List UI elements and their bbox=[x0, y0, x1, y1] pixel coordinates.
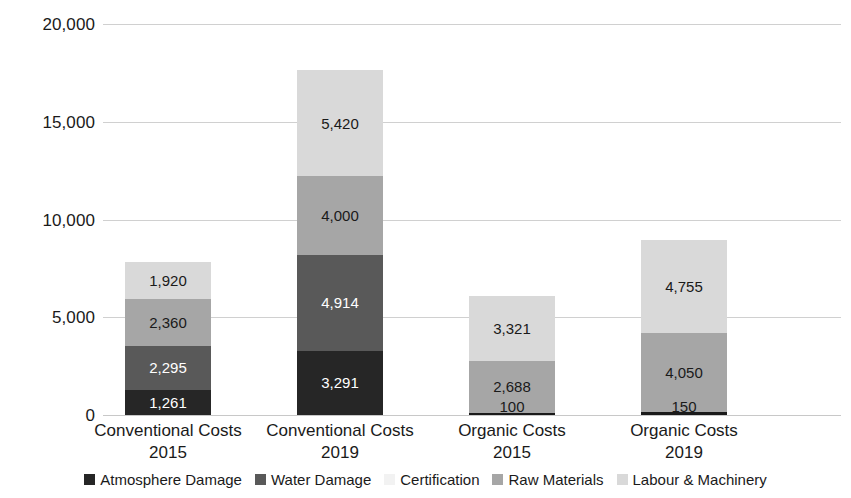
legend-label: Water Damage bbox=[271, 472, 371, 487]
bar-segment-value-label: 100 bbox=[469, 399, 555, 414]
bar-segment[interactable]: 4,914 bbox=[297, 255, 383, 351]
bar-segment[interactable]: 4,000 bbox=[297, 176, 383, 254]
legend-label: Labour & Machinery bbox=[633, 472, 767, 487]
bar-segment[interactable]: 150 bbox=[641, 412, 727, 415]
legend-swatch-icon bbox=[492, 474, 503, 485]
x-axis-category-label: Conventional Costs2019 bbox=[245, 420, 435, 464]
legend-item[interactable]: Raw Materials bbox=[492, 472, 603, 487]
x-axis-category-label: Organic Costs2019 bbox=[589, 420, 779, 464]
x-axis-category-line2: 2019 bbox=[245, 442, 435, 464]
bar-4[interactable]: 1504,0504,755 bbox=[641, 240, 727, 415]
bar-segment-value-label: 150 bbox=[641, 399, 727, 414]
bar-segment-value-label: 2,360 bbox=[149, 315, 187, 330]
x-axis-category-line2: 2015 bbox=[417, 442, 607, 464]
x-axis-category-label: Conventional Costs2015 bbox=[73, 420, 263, 464]
bar-3[interactable]: 1002,6883,321 bbox=[469, 296, 555, 415]
bar-segment[interactable]: 100 bbox=[469, 413, 555, 415]
bar-segment[interactable]: 4,755 bbox=[641, 240, 727, 333]
x-axis-category-line1: Conventional Costs bbox=[94, 421, 241, 440]
x-axis-category-label: Organic Costs2015 bbox=[417, 420, 607, 464]
x-axis-category-line2: 2015 bbox=[73, 442, 263, 464]
legend-label: Raw Materials bbox=[508, 472, 603, 487]
y-axis-tick-label: 20,000 bbox=[3, 16, 95, 33]
bar-segment-value-label: 3,291 bbox=[321, 375, 359, 390]
chart-legend: Atmosphere DamageWater DamageCertificati… bbox=[0, 472, 851, 487]
legend-item[interactable]: Certification bbox=[384, 472, 479, 487]
x-axis-category-line1: Organic Costs bbox=[630, 421, 738, 440]
bar-segment-value-label: 4,050 bbox=[665, 365, 703, 380]
legend-swatch-icon bbox=[255, 474, 266, 485]
bar-segment[interactable]: 3,321 bbox=[469, 296, 555, 361]
bar-segment[interactable]: 1,261 bbox=[125, 390, 211, 415]
y-axis-tick-label: 10,000 bbox=[3, 212, 95, 229]
gridline-20000 bbox=[103, 24, 841, 25]
bar-segment-value-label: 4,914 bbox=[321, 295, 359, 310]
bar-segment[interactable]: 1,920 bbox=[125, 262, 211, 300]
gridline-0 bbox=[103, 415, 841, 416]
bar-2[interactable]: 3,2914,9144,0005,420 bbox=[297, 70, 383, 415]
gridline-15000 bbox=[103, 122, 841, 123]
stacked-bar-chart: 05,00010,00015,00020,000 1,2612,2952,360… bbox=[0, 0, 851, 498]
bar-segment-value-label: 5,420 bbox=[321, 116, 359, 131]
y-axis-tick-label: 5,000 bbox=[3, 309, 95, 326]
legend-label: Atmosphere Damage bbox=[100, 472, 242, 487]
bar-segment-value-label: 2,688 bbox=[493, 379, 531, 394]
x-axis-category-line2: 2019 bbox=[589, 442, 779, 464]
legend-swatch-icon bbox=[384, 474, 395, 485]
y-axis-tick-label: 15,000 bbox=[3, 114, 95, 131]
gridline-10000 bbox=[103, 220, 841, 221]
legend-swatch-icon bbox=[84, 474, 95, 485]
bar-segment-value-label: 2,295 bbox=[149, 360, 187, 375]
x-axis-category-line1: Conventional Costs bbox=[266, 421, 413, 440]
plot-area: 1,2612,2952,3601,9203,2914,9144,0005,420… bbox=[103, 24, 841, 415]
legend-swatch-icon bbox=[617, 474, 628, 485]
legend-item[interactable]: Atmosphere Damage bbox=[84, 472, 242, 487]
bar-segment[interactable]: 2,360 bbox=[125, 299, 211, 345]
x-axis-category-line1: Organic Costs bbox=[458, 421, 566, 440]
legend-item[interactable]: Labour & Machinery bbox=[617, 472, 767, 487]
legend-item[interactable]: Water Damage bbox=[255, 472, 371, 487]
bar-segment-value-label: 3,321 bbox=[493, 321, 531, 336]
bar-segment[interactable]: 5,420 bbox=[297, 70, 383, 176]
legend-label: Certification bbox=[400, 472, 479, 487]
bar-segment[interactable]: 2,295 bbox=[125, 346, 211, 391]
bar-1[interactable]: 1,2612,2952,3601,920 bbox=[125, 262, 211, 415]
bar-segment-value-label: 1,261 bbox=[149, 395, 187, 410]
bar-segment-value-label: 1,920 bbox=[149, 273, 187, 288]
bar-segment-value-label: 4,000 bbox=[321, 208, 359, 223]
bar-segment-value-label: 4,755 bbox=[665, 279, 703, 294]
bar-segment[interactable]: 3,291 bbox=[297, 351, 383, 415]
